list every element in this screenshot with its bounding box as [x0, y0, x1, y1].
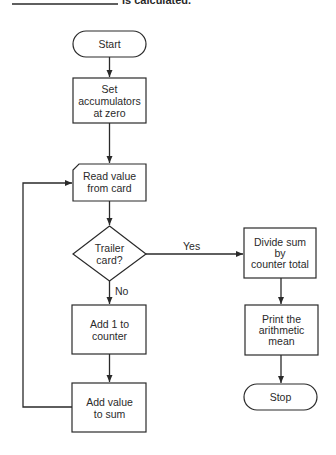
decision-line-1: Trailer	[95, 242, 125, 254]
add-value-line-2: to sum	[94, 408, 126, 420]
add-value-line-1: Add value	[86, 396, 133, 408]
stop-terminal: Stop	[244, 384, 317, 410]
add-value-box: Add value to sum	[72, 383, 146, 432]
add-counter-box: Add 1 to counter	[72, 305, 146, 354]
set-line-1: Set	[102, 83, 118, 95]
start-terminal: Start	[73, 31, 146, 57]
stop-label: Stop	[270, 391, 292, 403]
divide-line-3: counter total	[251, 258, 309, 270]
add-counter-line-1: Add 1 to	[90, 318, 129, 330]
header-fragment: is calculated.	[12, 0, 191, 6]
set-line-2: accumulators	[78, 95, 140, 107]
set-line-3: at zero	[93, 107, 125, 119]
print-mean-box: Print the arithmetic mean	[245, 305, 318, 355]
no-label: No	[115, 285, 129, 297]
yes-label: Yes	[183, 240, 200, 252]
arrow-loop-back	[23, 183, 72, 407]
print-line-3: mean	[268, 335, 294, 347]
start-label: Start	[98, 38, 120, 50]
header-text: is calculated.	[122, 0, 191, 6]
flowchart: is calculated. Start Set accumulators at…	[0, 0, 336, 455]
divide-sum-box: Divide sum by counter total	[244, 228, 316, 278]
add-counter-line-2: counter	[92, 330, 128, 342]
read-line-1: Read value	[83, 170, 136, 182]
trailer-card-decision: Trailer card?	[73, 226, 146, 281]
read-line-2: from card	[87, 182, 132, 194]
read-value-card: Read value from card	[73, 164, 146, 201]
decision-line-2: card?	[96, 254, 122, 266]
set-accumulators-box: Set accumulators at zero	[73, 78, 146, 123]
